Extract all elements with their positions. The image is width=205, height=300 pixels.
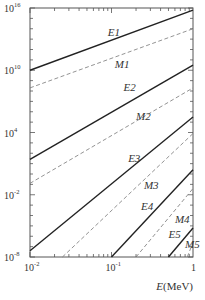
label-e4: E4 — [140, 200, 154, 212]
curve-labels: E1M1E2M2E3M3E4M4E5M5 — [107, 26, 200, 250]
y-tick-label: 1010 — [4, 63, 21, 76]
series-e2 — [30, 65, 193, 159]
series-lines — [30, 10, 193, 257]
x-axis-title: E(MeV) — [155, 280, 193, 293]
plot-frame — [30, 8, 193, 257]
y-tick-label: 10-8 — [4, 250, 19, 263]
label-m3: M3 — [143, 179, 159, 191]
label-e1: E1 — [107, 26, 120, 38]
axis-ticks: 10-810-21041010101610-210-11 — [4, 1, 196, 273]
label-m5: M5 — [184, 238, 200, 250]
x-tick-label: 1 — [191, 262, 196, 273]
x-tick-label: 10-2 — [24, 260, 39, 273]
label-e3: E3 — [127, 152, 141, 164]
line-chart: 10-810-21041010101610-210-11 E1M1E2M2E3M… — [0, 0, 205, 300]
label-m1: M1 — [114, 58, 130, 70]
y-tick-label: 104 — [4, 126, 18, 139]
x-tick-label: 10-1 — [106, 260, 121, 273]
label-e5: E5 — [167, 228, 181, 240]
label-e2: E2 — [122, 81, 136, 93]
label-m2: M2 — [135, 110, 151, 122]
y-tick-label: 10-2 — [4, 188, 19, 201]
label-m4: M4 — [174, 213, 190, 225]
series-e1 — [30, 10, 193, 70]
y-tick-label: 1016 — [4, 1, 21, 14]
series-m2 — [30, 88, 193, 183]
